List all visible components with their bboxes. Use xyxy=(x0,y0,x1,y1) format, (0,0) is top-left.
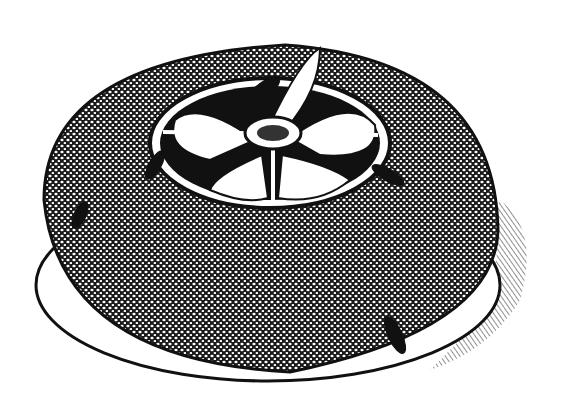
trap-illustration xyxy=(0,0,574,406)
